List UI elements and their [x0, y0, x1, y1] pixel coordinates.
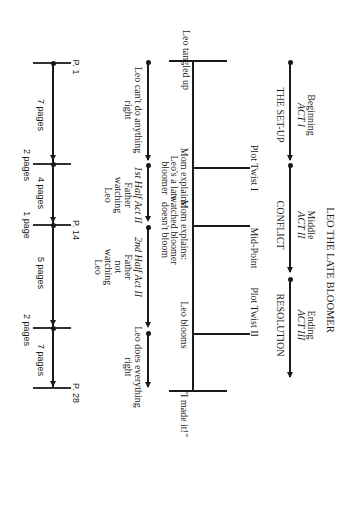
span-5-pages: 5 pages: [36, 248, 46, 298]
spine-end-cap: [169, 390, 227, 392]
pages-seg-3-dot: [51, 223, 56, 228]
event-i-made-it: "I made it!": [179, 390, 189, 450]
event-leo-tangled-up: Leo tangled up: [181, 30, 191, 100]
event-leo-blooms: Leo blooms: [179, 295, 189, 355]
pages-seg-4-dot: [51, 326, 56, 331]
span-7-pages-a: 7 pages: [36, 90, 46, 140]
act-2-start-dot: [288, 163, 293, 168]
story-structure-diagram: LEO THE LATE BLOOMER Beginning ACT I THE…: [0, 0, 349, 507]
act-1-line: [289, 62, 291, 160]
plot-twist-2-tick: [193, 333, 250, 335]
span-2-pages-b: 2 pages: [22, 305, 32, 355]
page-marker-p28: P. 28: [71, 376, 81, 410]
act-3-position: Ending: [306, 290, 316, 360]
story-seg-2-arrow-icon: [145, 216, 151, 222]
event-mom-explains-2: Mom explains: watched bloomer doesn't bl…: [161, 190, 190, 270]
spine-start-cap: [169, 60, 227, 62]
story-seg-3-line: [147, 227, 149, 326]
pages-start-dot: [51, 61, 56, 66]
story-seg-1-arrow-icon: [145, 155, 151, 161]
act-3-line: [289, 279, 291, 377]
story-seg-4-dot: [146, 331, 151, 336]
act-1-number: ACT I: [296, 80, 306, 150]
story-leo-does-everything: Leo does everything right: [123, 322, 143, 412]
pages-seg-4-arrow-icon: [50, 381, 56, 387]
act-1-start-dot: [288, 60, 293, 65]
page-marker-p14: P. 14: [71, 213, 81, 247]
act-3-start-dot: [288, 277, 293, 282]
page-28-tick: [33, 387, 71, 389]
pages-seg-1-arrow-icon: [50, 155, 56, 161]
story-1st-half-heading: 1st Half Act II: [133, 160, 143, 230]
plot-twist-1-tick: [193, 167, 250, 169]
act-1-name: THE SET-UP: [275, 75, 285, 155]
story-seg-4-arrow-icon: [145, 382, 151, 388]
story-2nd-half-heading: 2nd Half Act II: [133, 232, 143, 302]
story-seg-1-dot: [146, 60, 151, 65]
act-1-arrow-icon: [287, 155, 293, 161]
story-father-watching: Father watching Leo: [103, 160, 133, 230]
story-seg-1-line: [147, 62, 149, 160]
story-seg-2-dot: [146, 163, 151, 168]
plot-twist-2-label: Plot Twist II: [249, 277, 259, 347]
story-father-not-watching: Father not watching Leo: [93, 232, 133, 302]
span-2-pages-a: 2 pages: [22, 140, 32, 190]
span-7-pages-b: 7 pages: [36, 335, 46, 385]
span-4-pages: 4 pages: [36, 168, 46, 218]
act-3-name: RESOLUTION: [275, 280, 285, 370]
diagram-title: LEO THE LATE BLOOMER: [325, 200, 335, 340]
pages-seg-2-dot: [51, 162, 56, 167]
act-2-position: Middle: [306, 190, 316, 260]
mid-point-tick: [193, 225, 250, 227]
plot-twist-1-label: Plot Twist I: [249, 133, 259, 203]
story-seg-3-arrow-icon: [145, 322, 151, 328]
act-3-arrow-icon: [287, 372, 293, 378]
story-seg-4-line: [147, 333, 149, 387]
act-2-name: CONFLICT: [275, 185, 285, 265]
act-3-number: ACT III: [296, 290, 306, 360]
act-2-line: [289, 165, 291, 272]
act-2-number: ACT II: [296, 190, 306, 260]
mid-point-label: Mid-Point: [249, 218, 259, 278]
story-leo-cant-do-anything: Leo can't do anything right: [123, 60, 143, 160]
act-2-arrow-icon: [287, 267, 293, 273]
act-1-position: Beginning: [306, 80, 316, 150]
story-seg-3-dot: [146, 225, 151, 230]
page-marker-p1: P. 1: [71, 52, 81, 82]
span-1-page: 1 page: [22, 205, 32, 245]
story-seg-2-line: [147, 165, 149, 220]
